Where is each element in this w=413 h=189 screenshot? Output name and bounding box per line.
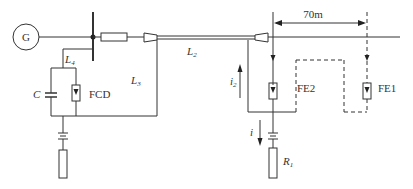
label-FE1: FE1	[378, 82, 396, 94]
resistor-R1-icon	[269, 148, 277, 178]
label-i: i	[250, 126, 253, 138]
label-L4: L4	[64, 53, 75, 67]
label-FCD: FCD	[89, 88, 110, 100]
label-FE2: FE2	[297, 82, 315, 94]
cable-terminal-right-icon	[255, 33, 268, 42]
label-C: C	[33, 88, 41, 100]
circuit-diagram: G L2 L3 L4 C FCD FE2 FE1 70m i2 i R1	[0, 0, 413, 189]
label-L2: L2	[186, 45, 197, 59]
cable-terminal-left-icon	[144, 33, 157, 42]
label-L3: L3	[130, 74, 141, 88]
label-distance: 70m	[303, 8, 323, 20]
ground-resistor-left-icon	[59, 150, 67, 178]
label-i2: i2	[230, 75, 237, 89]
generator-label: G	[22, 31, 30, 43]
series-resistor-icon	[101, 33, 127, 41]
label-R1: R1	[282, 155, 293, 169]
